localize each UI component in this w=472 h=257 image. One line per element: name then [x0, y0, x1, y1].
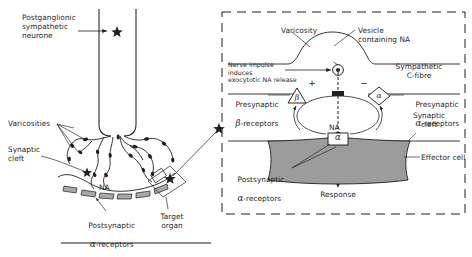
postsyn-receptors-text: -receptors: [243, 194, 281, 203]
label-varicosity: Varicosity: [281, 26, 317, 35]
label-presynaptic-beta-receptors: Presynaptic β-receptors: [226, 91, 286, 137]
label-nerve-impulse: Nerve impulseinducesexocytotic NA releas…: [228, 61, 290, 84]
receptors-text-left: -receptors: [96, 240, 134, 249]
beta-receptors-text: -receptors: [240, 119, 278, 128]
sign-positive: +: [306, 79, 318, 88]
figure-root: Postganglionicsympatheticneurone Varicos…: [0, 0, 472, 257]
label-effector-cell: Effector cell: [421, 153, 465, 162]
alpha-presynaptic-receptor-glyph: α: [371, 91, 387, 100]
label-postsynaptic-receptors-left: Postsynaptic α-receptors: [62, 212, 152, 257]
label-postsynaptic-alpha-receptors-inset: Postsynaptic α-receptors: [228, 166, 294, 212]
label-sympathetic-c-fibre: SympatheticC-fibre: [384, 62, 454, 80]
detail-callout-box: [148, 166, 186, 197]
presyn-beta-line1: Presynaptic: [235, 100, 278, 109]
postsynaptic-pointer: [96, 198, 106, 211]
inset-star: [213, 123, 225, 134]
label-postganglionic-neurone: Postganglionicsympatheticneurone: [22, 13, 82, 41]
alpha-postsynaptic-receptor-glyph: α: [330, 133, 346, 142]
label-vesicle-containing-na: Vesiclecontaining NA: [358, 26, 432, 44]
zoom-connector-line: [173, 130, 218, 176]
postsynaptic-label-line1: Postsynaptic: [88, 221, 135, 230]
label-varicosities: Varicosities: [8, 119, 50, 128]
varicosity-network: [67, 136, 173, 189]
label-synaptic-cleft-left: Synapticcleft: [8, 145, 48, 163]
label-target-organ: Targetorgan: [152, 212, 192, 230]
synaptic-cleft-star: [82, 168, 92, 178]
neurone-star: [111, 26, 123, 37]
release-site-bar: [332, 91, 344, 96]
target-organ-pointer: [166, 197, 168, 209]
presyn-alpha-line1: Presynaptic: [415, 100, 458, 109]
sign-negative: −: [358, 79, 370, 88]
beta-receptor-glyph: β: [289, 93, 305, 102]
label-response: Response: [312, 190, 364, 199]
label-na-inset: NA: [329, 123, 340, 132]
label-na-left: NA: [99, 183, 110, 192]
left-panel-graphics: [41, 9, 225, 243]
varicosities-leaders: [57, 124, 86, 152]
label-synaptic-cleft-inset: Synapticcleft: [402, 111, 456, 129]
postsyn-inset-line1: Postsynaptic: [237, 175, 284, 184]
